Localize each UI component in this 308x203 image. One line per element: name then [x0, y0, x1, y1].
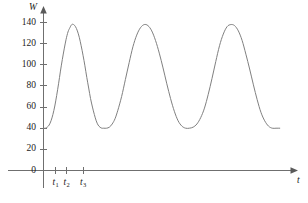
y-tick-label: 0 [4, 166, 36, 176]
x-axis-title: t [297, 176, 300, 186]
chart-canvas [0, 0, 308, 203]
power-vs-time-chart: 020406080100120140 t1t2t3 W t [0, 0, 308, 203]
x-tick-label-subscript: 2 [66, 181, 69, 188]
x-tick-label: t3 [71, 178, 95, 188]
power-curve [44, 24, 280, 128]
y-tick-label: 20 [4, 144, 36, 154]
y-tick-label: 60 [4, 102, 36, 112]
y-tick-label: 120 [4, 39, 36, 49]
y-axis-title: W [29, 3, 37, 13]
y-tick-label: 100 [4, 60, 36, 70]
x-axis-arrow-icon [291, 167, 299, 174]
y-tick-label: 140 [4, 18, 36, 28]
y-tick-label: 40 [4, 123, 36, 133]
x-tick-label-subscript: 3 [83, 181, 86, 188]
y-tick-label: 80 [4, 81, 36, 91]
y-axis-arrow-icon [40, 6, 47, 14]
